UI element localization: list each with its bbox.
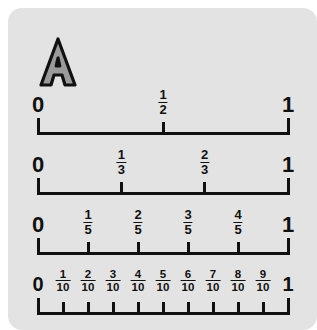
tick-halves-2 — [287, 118, 290, 135]
label-thirds-2-over-3: 23 — [200, 148, 209, 177]
label-fifths-3-over-5: 35 — [183, 208, 192, 237]
fraction-numerator: 1 — [56, 268, 71, 280]
tick-tenths-6 — [187, 302, 190, 315]
fraction-label: 12 — [158, 88, 167, 116]
label-thirds-one: 1 — [282, 154, 294, 176]
fraction-denominator: 2 — [158, 102, 167, 117]
label-tenths-zero: 0 — [32, 274, 43, 294]
fraction-label: 510 — [156, 268, 171, 293]
label-halves-one: 1 — [282, 94, 294, 116]
fraction-denominator: 3 — [117, 162, 126, 177]
fraction-numerator: 1 — [158, 88, 167, 102]
fraction-label: 810 — [231, 268, 246, 293]
label-fifths-2-over-5: 25 — [133, 208, 142, 237]
fraction-label: 310 — [106, 268, 121, 293]
tick-fifths-0 — [37, 238, 40, 255]
fraction-label: 610 — [181, 268, 196, 293]
label-halves-1-over-2: 12 — [158, 88, 167, 117]
fraction-label: 23 — [200, 148, 209, 176]
label-tenths-6-over-10: 610 — [181, 268, 196, 294]
label-tenths-1-over-10: 110 — [56, 268, 71, 294]
fraction-denominator: 10 — [156, 280, 171, 293]
axis-line-thirds — [38, 192, 288, 195]
tick-fifths-3 — [187, 242, 190, 255]
fraction-denominator: 10 — [56, 280, 71, 293]
label-tenths-8-over-10: 810 — [231, 268, 246, 294]
tick-halves-0 — [37, 118, 40, 135]
fraction-number-line-card: 0121013231015253545101102103104105106107… — [8, 8, 317, 330]
fraction-denominator: 5 — [183, 222, 192, 237]
fraction-denominator: 10 — [106, 280, 121, 293]
label-fifths-one: 1 — [282, 214, 294, 236]
tick-fifths-1 — [87, 242, 90, 255]
fraction-denominator: 10 — [131, 280, 146, 293]
label-thirds-1-over-3: 13 — [117, 148, 126, 177]
fraction-label: 45 — [233, 208, 242, 236]
fraction-label: 25 — [133, 208, 142, 236]
label-fifths-zero: 0 — [32, 214, 44, 236]
fraction-numerator: 1 — [117, 148, 126, 162]
label-tenths-7-over-10: 710 — [206, 268, 221, 294]
fraction-denominator: 5 — [233, 222, 242, 237]
tick-fifths-2 — [137, 242, 140, 255]
label-tenths-one: 1 — [282, 274, 293, 294]
fraction-numerator: 4 — [131, 268, 146, 280]
label-tenths-9-over-10: 910 — [256, 268, 271, 294]
fraction-label: 13 — [117, 148, 126, 176]
fraction-numerator: 4 — [233, 208, 242, 222]
fraction-denominator: 3 — [200, 162, 209, 177]
fraction-label: 15 — [83, 208, 92, 236]
tick-halves-1 — [162, 122, 165, 135]
fraction-numerator: 2 — [81, 268, 96, 280]
fraction-numerator: 9 — [256, 268, 271, 280]
fraction-numerator: 6 — [181, 268, 196, 280]
fraction-numerator: 3 — [183, 208, 192, 222]
axis-line-fifths — [38, 252, 288, 255]
label-tenths-4-over-10: 410 — [131, 268, 146, 294]
fraction-denominator: 10 — [231, 280, 246, 293]
number-line-fifths: 0152535451 — [8, 208, 317, 268]
fraction-denominator: 10 — [181, 280, 196, 293]
fraction-label: 410 — [131, 268, 146, 293]
label-halves-zero: 0 — [32, 94, 44, 116]
fraction-label: 110 — [56, 268, 71, 293]
label-thirds-zero: 0 — [32, 154, 44, 176]
fraction-numerator: 2 — [200, 148, 209, 162]
fraction-label: 710 — [206, 268, 221, 293]
tick-thirds-3 — [287, 178, 290, 195]
fraction-numerator: 7 — [206, 268, 221, 280]
tick-tenths-8 — [237, 302, 240, 315]
fraction-numerator: 2 — [133, 208, 142, 222]
fraction-label: 35 — [183, 208, 192, 236]
tick-tenths-10 — [287, 298, 290, 315]
label-fifths-4-over-5: 45 — [233, 208, 242, 237]
tick-tenths-2 — [87, 302, 90, 315]
tick-tenths-1 — [62, 302, 65, 315]
fraction-denominator: 5 — [133, 222, 142, 237]
tick-fifths-5 — [287, 238, 290, 255]
label-fifths-1-over-5: 15 — [83, 208, 92, 237]
tick-tenths-3 — [112, 302, 115, 315]
fraction-denominator: 5 — [83, 222, 92, 237]
number-lines-group: 0121013231015253545101102103104105106107… — [8, 8, 317, 330]
tick-thirds-2 — [203, 182, 206, 195]
fraction-denominator: 10 — [81, 280, 96, 293]
tick-tenths-4 — [137, 302, 140, 315]
number-line-tenths: 01102103104105106107108109101 — [8, 268, 317, 328]
tick-thirds-1 — [120, 182, 123, 195]
fraction-numerator: 5 — [156, 268, 171, 280]
fraction-label: 910 — [256, 268, 271, 293]
fraction-label: 210 — [81, 268, 96, 293]
fraction-denominator: 10 — [256, 280, 271, 293]
fraction-denominator: 10 — [206, 280, 221, 293]
tick-tenths-0 — [37, 298, 40, 315]
tick-tenths-7 — [212, 302, 215, 315]
label-tenths-2-over-10: 210 — [81, 268, 96, 294]
fraction-numerator: 3 — [106, 268, 121, 280]
number-line-halves: 0121 — [8, 88, 317, 148]
tick-thirds-0 — [37, 178, 40, 195]
tick-tenths-9 — [262, 302, 265, 315]
fraction-numerator: 1 — [83, 208, 92, 222]
label-tenths-5-over-10: 510 — [156, 268, 171, 294]
fraction-numerator: 8 — [231, 268, 246, 280]
